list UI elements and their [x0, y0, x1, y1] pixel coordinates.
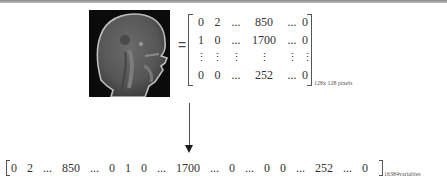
vector-right-bracket [379, 160, 383, 176]
matrix-cell: 0 [193, 67, 209, 85]
matrix-grid: 0 2 ... 850 ... 0 1 0 ... 1700 ... 0 ⋮ ⋮… [193, 14, 307, 84]
vector-item: 0 [362, 161, 368, 176]
vector-item: 252 [315, 161, 333, 176]
arrow-down-icon [185, 145, 193, 153]
vector-item: 0 [109, 161, 115, 176]
pixel-matrix: 0 2 ... 850 ... 0 1 0 ... 1700 ... 0 ⋮ ⋮… [188, 14, 312, 86]
matrix-cell: ... [282, 32, 302, 50]
matrix-cell: 850 [246, 14, 282, 32]
vector-item: 0 [280, 161, 286, 176]
mri-image [89, 10, 170, 97]
mri-head-silhouette-icon [89, 10, 170, 97]
matrix-cell: 252 [246, 67, 282, 85]
vector-item: 0 [11, 161, 17, 176]
matrix-right-bracket [307, 14, 312, 86]
matrix-cell-vdots: ⋮ [246, 49, 282, 67]
matrix-cell: 1700 [246, 32, 282, 50]
matrix-cell-vdots: ⋮ [226, 49, 246, 67]
vector-item: ... [343, 161, 352, 176]
vector-item: 850 [62, 161, 80, 176]
vector-item: 0 [264, 161, 270, 176]
vector-left-bracket [6, 160, 10, 176]
vector-item: 0 [141, 161, 147, 176]
matrix-cell: 0 [209, 32, 226, 50]
matrix-cell: ... [282, 67, 302, 85]
matrix-cell-vdots: ⋮ [209, 49, 226, 67]
vector-size-label: 16384variables [384, 171, 421, 177]
matrix-cell-vdots: ⋮ [282, 49, 302, 67]
vector-item: 0 [229, 161, 235, 176]
matrix-cell: ... [226, 32, 246, 50]
vector-item: ... [157, 161, 166, 176]
vector-item: ... [90, 161, 99, 176]
matrix-cell: 0 [193, 14, 209, 32]
matrix-cell-vdots: ⋮ [193, 49, 209, 67]
matrix-cell: ... [226, 14, 246, 32]
vector-item: ... [245, 161, 254, 176]
top-border [0, 0, 447, 3]
vector-item: ... [43, 161, 52, 176]
matrix-cell: 1 [193, 32, 209, 50]
matrix-cell: ... [282, 14, 302, 32]
vector-item: 1700 [176, 161, 200, 176]
matrix-cell: ... [226, 67, 246, 85]
matrix-size-label: 128x 128 pixels [314, 80, 352, 86]
vector-item: 1 [125, 161, 131, 176]
vector-item: ... [296, 161, 305, 176]
vector-item: ... [210, 161, 219, 176]
matrix-cell: 0 [209, 67, 226, 85]
vector-item: 2 [27, 161, 33, 176]
down-arrow-shaft [189, 103, 190, 145]
equals-sign: = [178, 37, 186, 53]
flattened-vector: 0 2 ... 850 ... 0 1 0 ... 1700 ... 0 ...… [6, 160, 421, 176]
matrix-cell: 2 [209, 14, 226, 32]
